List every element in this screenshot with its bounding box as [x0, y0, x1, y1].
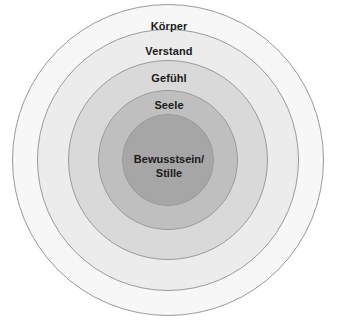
ring-bewusstsein-stille[interactable] [122, 114, 214, 206]
concentric-circles-diagram: Körper Verstand Gefühl Seele Bewusstsein… [0, 0, 338, 330]
